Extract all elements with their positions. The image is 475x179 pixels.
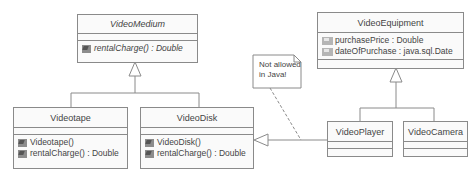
generalization-arrowhead xyxy=(254,134,268,146)
operation: rentalCharge() : Double xyxy=(82,43,193,54)
operation: rentalCharge() : Double xyxy=(145,148,249,159)
operation: rentalCharge() : Double xyxy=(18,148,123,159)
attributes-compartment: purchasePrice : Double dateOfPurchase : … xyxy=(318,33,463,60)
operation-icon xyxy=(18,150,27,158)
class-name: VideoCamera xyxy=(404,122,467,142)
attributes-compartment xyxy=(14,128,127,135)
class-videotape[interactable]: Videotape Videotape() rentalCharge() : D… xyxy=(13,107,128,169)
operation: Videotape() xyxy=(18,137,123,148)
operation: VideoDisk() xyxy=(145,137,249,148)
operation-icon xyxy=(82,45,91,53)
operation-icon xyxy=(145,150,154,158)
operations-compartment: rentalCharge() : Double xyxy=(78,41,197,55)
attributes-compartment xyxy=(141,128,253,135)
generalization-arrowhead xyxy=(390,68,402,82)
note: Not allowed in Java! xyxy=(259,60,301,80)
operations-compartment: Videotape() rentalCharge() : Double xyxy=(14,135,127,160)
note-anchor-line xyxy=(270,88,301,140)
attribute-icon xyxy=(322,37,333,45)
operations-compartment xyxy=(328,149,392,156)
operations-compartment: VideoDisk() rentalCharge() : Double xyxy=(141,135,253,160)
class-name: VideoDisk xyxy=(141,108,253,128)
class-video-medium[interactable]: VideoMedium rentalCharge() : Double xyxy=(77,14,198,63)
class-video-disk[interactable]: VideoDisk VideoDisk() rentalCharge() : D… xyxy=(140,107,254,169)
operation-icon xyxy=(18,139,27,147)
generalization-arrowhead xyxy=(129,62,141,76)
class-name: VideoPlayer xyxy=(328,122,392,142)
operations-compartment xyxy=(318,60,463,67)
note-line-1: Not allowed xyxy=(259,60,301,70)
attributes-compartment xyxy=(78,34,197,41)
class-video-camera[interactable]: VideoCamera xyxy=(403,121,468,157)
class-name: VideoEquipment xyxy=(318,13,463,33)
class-video-equipment[interactable]: VideoEquipment purchasePrice : Double da… xyxy=(317,12,464,69)
note-line-2: in Java! xyxy=(259,70,301,80)
class-name: VideoMedium xyxy=(78,15,197,34)
class-name: Videotape xyxy=(14,108,127,128)
attributes-compartment xyxy=(404,142,467,149)
operations-compartment xyxy=(404,149,467,156)
attribute: purchasePrice : Double xyxy=(322,35,459,46)
operation-icon xyxy=(145,139,154,147)
attributes-compartment xyxy=(328,142,392,149)
class-video-player[interactable]: VideoPlayer xyxy=(327,121,393,157)
attribute: dateOfPurchase : java.sql.Date xyxy=(322,46,459,57)
attribute-icon xyxy=(322,48,333,56)
